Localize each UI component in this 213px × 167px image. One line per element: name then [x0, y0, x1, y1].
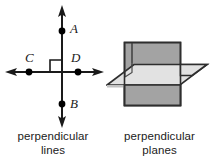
- vertical-plane-front-lower: [125, 85, 181, 106]
- point-c-dot: [26, 69, 33, 76]
- point-label-d: D: [70, 50, 81, 65]
- perpendicular-planes-caption: perpendicular planes: [106, 130, 213, 157]
- caption-planes-line1: perpendicular: [124, 130, 195, 142]
- horizontal-plane-right-wing: [181, 65, 208, 76]
- point-label-a: A: [69, 21, 78, 36]
- perpendicular-planes-diagram: [106, 0, 213, 130]
- perpendicular-planes-panel: perpendicular planes: [106, 0, 213, 167]
- figure-pair-illustration: A C D B perpendicular lines: [0, 0, 213, 167]
- perpendicular-lines-diagram: A C D B: [0, 0, 106, 130]
- caption-planes-line2: planes: [106, 144, 213, 158]
- perpendicular-lines-caption: perpendicular lines: [0, 130, 106, 157]
- point-b-dot: [59, 101, 66, 108]
- point-a-dot: [59, 28, 66, 35]
- right-angle-mark-icon: [50, 60, 62, 72]
- perpendicular-lines-panel: A C D B perpendicular lines: [0, 0, 106, 167]
- point-label-b: B: [70, 96, 78, 111]
- caption-lines-line1: perpendicular: [18, 130, 89, 142]
- point-d-dot: [75, 69, 82, 76]
- point-label-c: C: [25, 50, 34, 65]
- caption-lines-line2: lines: [0, 144, 106, 158]
